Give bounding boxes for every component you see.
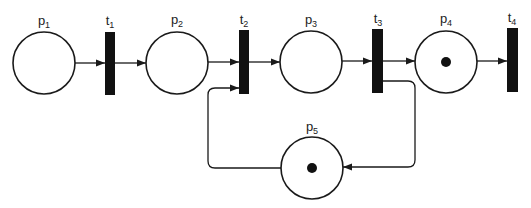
arc-p5-t2 xyxy=(208,88,281,168)
label-p5-sub: 5 xyxy=(313,126,318,136)
place-p2[interactable] xyxy=(146,32,208,94)
place-p1[interactable] xyxy=(13,32,75,94)
label-p5: p5 xyxy=(306,120,318,136)
transition-t1[interactable] xyxy=(105,32,115,95)
label-t4: t4 xyxy=(508,11,517,27)
place-p3[interactable] xyxy=(280,31,342,93)
label-p2: p2 xyxy=(171,13,183,29)
label-t1-sub: 1 xyxy=(109,20,114,30)
label-t4-sub: 4 xyxy=(511,17,516,27)
transition-t4[interactable] xyxy=(507,28,518,92)
label-t1: t1 xyxy=(106,14,115,30)
label-t3: t3 xyxy=(374,12,383,28)
label-t2-sub: 2 xyxy=(243,19,248,29)
label-p2-sub: 2 xyxy=(178,19,183,29)
label-p1-sub: 1 xyxy=(45,20,50,30)
label-p3-sub: 3 xyxy=(312,19,317,29)
petri-net-diagram xyxy=(0,0,531,208)
token-p5 xyxy=(307,163,317,173)
label-t3-sub: 3 xyxy=(377,18,382,28)
label-p4-sub: 4 xyxy=(447,18,452,28)
transition-t3[interactable] xyxy=(372,29,383,93)
token-p4 xyxy=(441,57,451,67)
transition-t2[interactable] xyxy=(239,30,249,94)
label-t2: t2 xyxy=(240,13,249,29)
arc-t3-p5 xyxy=(343,81,415,167)
label-p4: p4 xyxy=(440,12,452,28)
label-p1: p1 xyxy=(38,14,50,30)
label-p3: p3 xyxy=(305,13,317,29)
